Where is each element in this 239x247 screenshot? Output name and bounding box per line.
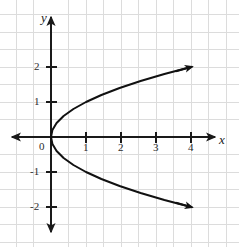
x-tick-label-1: 1 [83,142,89,153]
y-tick-label-1: 1 [34,96,40,107]
y-tick-label-neg2: -2 [30,201,39,212]
x-tick-label-2: 2 [118,142,124,153]
origin-label: 0 [39,141,45,152]
x-axis-label: x [219,133,225,146]
y-tick-label-neg1: -1 [30,166,39,177]
x-tick-label-3: 3 [153,142,159,153]
curve-arrow-upper [176,67,192,72]
graph-figure: y x 1 2 3 4 2 1 -1 -2 0 [0,0,239,247]
curve-arrow-lower [176,203,192,208]
y-tick-label-2: 2 [34,61,40,72]
x-tick-label-4: 4 [188,142,194,153]
y-axis-label: y [41,11,47,24]
